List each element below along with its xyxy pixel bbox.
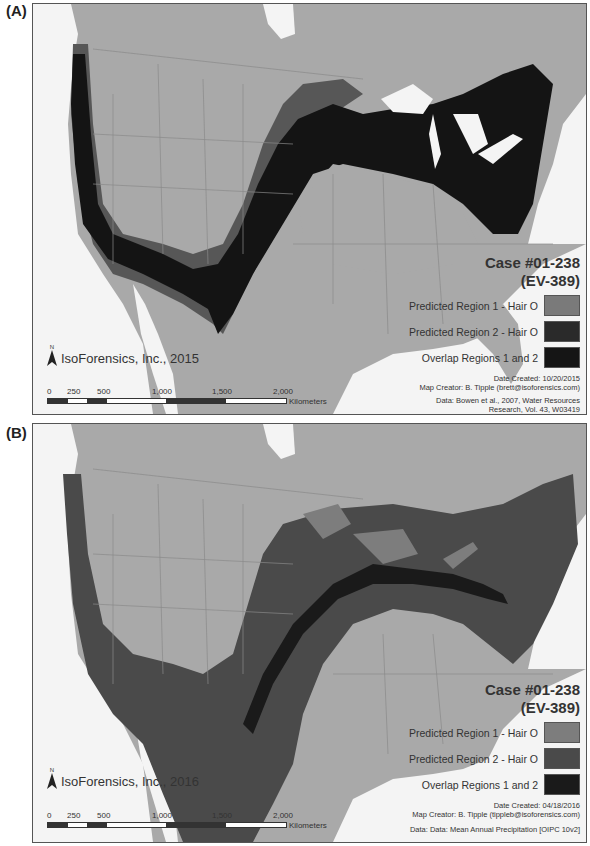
swatch-region-2 (544, 321, 580, 342)
case-subtitle: (EV-389) (409, 699, 580, 717)
scale-bar-b: 0 250 500 1,000 1,500 2,000 Kilometers (47, 811, 337, 828)
data-source-line-1: Data: Data: Mean Annual Precipitation [O… (409, 825, 580, 834)
brand-mark-b: N IsoForensics, Inc., 2016 (47, 767, 199, 789)
scale-bar-a: 0 250 500 1,000 1,500 2,000 Kilometers (47, 387, 337, 404)
swatch-region-1 (544, 295, 580, 316)
legend-item-overlap: Overlap Regions 1 and 2 (409, 774, 580, 795)
brand-text: IsoForensics, Inc., 2016 (61, 774, 199, 789)
brand-mark-a: N IsoForensics, Inc., 2015 (47, 344, 199, 366)
legend-item-region-1: Predicted Region 1 - Hair O (409, 722, 580, 743)
data-source-line-1: Data: Bowen et al., 2007, Water Resource… (409, 396, 580, 405)
swatch-region-2 (544, 748, 580, 769)
case-title: Case #01-238 (409, 681, 580, 699)
legend-a: Case #01-238 (EV-389) Predicted Region 1… (409, 254, 580, 414)
map-creator: Map Creator: B. Tipple (brett@isoforensi… (409, 383, 580, 392)
date-created: Date Created: 10/20/2015 (409, 374, 580, 383)
legend-item-overlap: Overlap Regions 1 and 2 (409, 347, 580, 368)
data-source-line-2: Research, Vol. 43, W03419 (409, 405, 580, 414)
brand-text: IsoForensics, Inc., 2015 (61, 351, 199, 366)
case-title: Case #01-238 (409, 254, 580, 272)
case-subtitle: (EV-389) (409, 272, 580, 290)
legend-item-region-2: Predicted Region 2 - Hair O (409, 321, 580, 342)
map-creator: Map Creator: B. Tipple (tippleb@isoforen… (409, 810, 580, 819)
scale-unit: Kilometers (289, 821, 327, 830)
legend-b: Case #01-238 (EV-389) Predicted Region 1… (409, 681, 580, 834)
panel-b-label: (B) (6, 424, 27, 441)
legend-item-region-1: Predicted Region 1 - Hair O (409, 295, 580, 316)
north-arrow-icon: N (47, 767, 57, 789)
swatch-region-1 (544, 722, 580, 743)
legend-item-region-2: Predicted Region 2 - Hair O (409, 748, 580, 769)
map-panel-a: N IsoForensics, Inc., 2015 0 250 500 1,0… (32, 3, 587, 415)
north-arrow-icon: N (47, 344, 57, 366)
map-panel-b: N IsoForensics, Inc., 2016 0 250 500 1,0… (32, 423, 587, 843)
panel-a-label: (A) (6, 2, 27, 19)
swatch-overlap (544, 774, 580, 795)
swatch-overlap (544, 347, 580, 368)
date-created: Date Created: 04/18/2016 (409, 801, 580, 810)
scale-unit: Kilometers (289, 397, 327, 406)
